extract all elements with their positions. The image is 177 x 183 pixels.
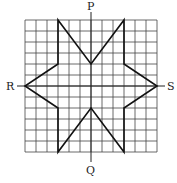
label-r: R	[6, 81, 14, 92]
label-q: Q	[86, 165, 95, 176]
grid-diagram	[0, 0, 177, 183]
label-p: P	[87, 1, 94, 12]
label-s: S	[167, 81, 175, 92]
